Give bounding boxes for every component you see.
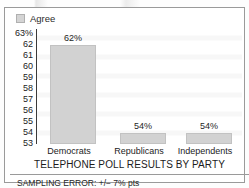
y-axis-tick-labels: 63% 62 61 60 59 58 57 56 55 54 53 xyxy=(9,29,33,146)
telephone-poll-bar-chart: Agree 63% 62 61 60 59 58 57 56 55 54 53 xyxy=(0,0,249,188)
y-tick-label: 62 xyxy=(23,40,33,49)
legend-swatch-agree xyxy=(16,14,25,23)
category-label-democrats: Democrats xyxy=(37,147,101,156)
y-tick-label: 55 xyxy=(23,117,33,126)
y-tick-label: 63% xyxy=(15,29,33,38)
plot-area: 62% 54% 54% xyxy=(37,29,242,144)
chart-frame: Agree 63% 62 61 60 59 58 57 56 55 54 53 xyxy=(4,7,245,183)
plot-wrapper: 63% 62 61 60 59 58 57 56 55 54 53 62% xyxy=(9,29,242,146)
bar-data-label: 54% xyxy=(111,122,175,131)
x-axis-title: TELEPHONE POLL RESULTS BY PARTY xyxy=(9,160,249,170)
sampling-error-note: SAMPLING ERROR: +/− 7% pts xyxy=(17,179,139,188)
bar-data-label: 62% xyxy=(41,34,105,43)
bar-series-agree: 62% 54% 54% xyxy=(37,29,242,144)
category-label-independents: Independents xyxy=(173,147,237,156)
y-tick-label: 61 xyxy=(23,51,33,60)
y-tick-label: 56 xyxy=(23,106,33,115)
bar-republicans xyxy=(120,133,166,144)
y-tick-label: 59 xyxy=(23,73,33,82)
y-tick-label: 54 xyxy=(23,128,33,137)
y-tick-label: 57 xyxy=(23,95,33,104)
y-tick-label: 58 xyxy=(23,84,33,93)
cropped-title-remnant xyxy=(0,0,249,7)
chart-legend: Agree xyxy=(16,14,55,24)
bar-independents xyxy=(186,133,232,144)
bar-democrats xyxy=(50,45,96,144)
y-tick-label: 53 xyxy=(23,139,33,148)
footnote-divider xyxy=(10,174,249,175)
legend-label-agree: Agree xyxy=(30,14,55,24)
bar-data-label: 54% xyxy=(177,122,241,131)
y-tick-label: 60 xyxy=(23,62,33,71)
category-label-republicans: Republicans xyxy=(107,147,171,156)
